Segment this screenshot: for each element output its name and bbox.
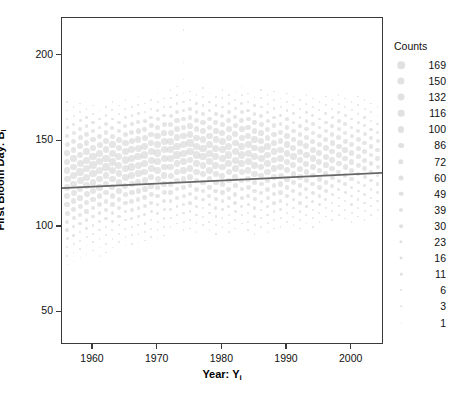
y-tick-label: 200 [13, 48, 53, 60]
legend-swatch-circle [398, 94, 405, 101]
chart-figure: 50100150200 19601970198019902000 First B… [0, 0, 458, 396]
legend-item: 60 [392, 170, 454, 186]
legend-swatch-box [392, 170, 410, 186]
legend-item: 30 [392, 218, 454, 234]
legend-swatch-box [392, 250, 410, 266]
legend-label: 39 [412, 202, 446, 218]
legend-item: 23 [392, 234, 454, 250]
legend-label: 150 [412, 73, 446, 89]
y-tick-label: 100 [13, 219, 53, 231]
legend-swatch-circle [400, 289, 402, 291]
legend-swatch-box [392, 218, 410, 234]
axis-subscript: i [239, 373, 241, 382]
x-tick-mark [285, 344, 286, 349]
legend-swatch-circle [399, 192, 404, 197]
legend-swatch-circle [398, 159, 403, 164]
legend-item: 16 [392, 250, 454, 266]
legend-swatch-box [392, 282, 410, 298]
legend-item: 169 [392, 57, 454, 73]
legend-swatch-circle [399, 208, 403, 212]
trend-line-layer [62, 18, 382, 343]
legend-swatch-box [392, 234, 410, 250]
legend-item: 39 [392, 202, 454, 218]
legend-swatch-circle [398, 110, 405, 117]
legend-label: 100 [412, 121, 446, 137]
x-axis-title: Year: Yi [202, 368, 241, 380]
legend-swatch-box [392, 186, 410, 202]
legend-label: 116 [412, 105, 446, 121]
legend-swatch-circle [399, 240, 402, 243]
y-tick-label: 50 [13, 304, 53, 316]
x-tick-mark [156, 344, 157, 349]
y-tick-mark [56, 311, 61, 312]
x-tick-label: 2000 [331, 352, 371, 364]
legend-swatch-circle [399, 175, 404, 180]
legend: Counts 169150132116100867260493930231611… [392, 40, 454, 331]
legend-item: 132 [392, 89, 454, 105]
legend-swatch-circle [397, 61, 405, 69]
y-axis-title: First Bloom Day: Bi [0, 90, 6, 270]
legend-swatch-circle [399, 224, 403, 228]
x-tick-mark [221, 344, 222, 349]
legend-item: 86 [392, 137, 454, 153]
legend-item: 1 [392, 315, 454, 331]
legend-item: 72 [392, 154, 454, 170]
legend-item: 49 [392, 186, 454, 202]
y-tick-label: 150 [13, 133, 53, 145]
legend-item: 100 [392, 121, 454, 137]
legend-label: 3 [412, 298, 446, 314]
legend-swatch-circle [400, 273, 403, 276]
legend-label: 72 [412, 154, 446, 170]
legend-swatch-circle [400, 257, 403, 260]
legend-item: 3 [392, 298, 454, 314]
legend-label: 86 [412, 137, 446, 153]
x-tick-label: 1980 [201, 352, 241, 364]
legend-label: 11 [412, 266, 446, 282]
legend-label: 30 [412, 218, 446, 234]
legend-swatch-box [392, 266, 410, 282]
legend-swatch-box [392, 57, 410, 73]
y-tick-mark [56, 225, 61, 226]
legend-swatch-box [392, 73, 410, 89]
legend-rows: 169150132116100867260493930231611631 [392, 57, 454, 331]
x-tick-mark [350, 344, 351, 349]
legend-item: 11 [392, 266, 454, 282]
legend-swatch-box [392, 89, 410, 105]
legend-swatch-box [392, 298, 410, 314]
x-tick-label: 1990 [266, 352, 306, 364]
legend-label: 23 [412, 234, 446, 250]
legend-item: 6 [392, 282, 454, 298]
legend-label: 16 [412, 250, 446, 266]
legend-label: 1 [412, 315, 446, 331]
legend-swatch-box [392, 202, 410, 218]
legend-label: 169 [412, 57, 446, 73]
x-tick-label: 1970 [137, 352, 177, 364]
plot-area [61, 17, 383, 344]
y-tick-mark [56, 140, 61, 141]
legend-item: 116 [392, 105, 454, 121]
legend-swatch-box [392, 105, 410, 121]
legend-swatch-box [392, 137, 410, 153]
legend-swatch-box [392, 121, 410, 137]
trend-line [62, 173, 382, 188]
x-tick-mark [91, 344, 92, 349]
legend-label: 60 [412, 170, 446, 186]
legend-label: 6 [412, 282, 446, 298]
legend-label: 49 [412, 186, 446, 202]
legend-title: Counts [394, 40, 454, 52]
x-tick-label: 1960 [72, 352, 112, 364]
legend-swatch-circle [398, 126, 404, 132]
legend-label: 132 [412, 89, 446, 105]
axis-subscript: i [0, 129, 8, 131]
legend-item: 150 [392, 73, 454, 89]
legend-swatch-box [392, 315, 410, 331]
legend-swatch-circle [400, 322, 401, 323]
legend-swatch-box [392, 154, 410, 170]
y-tick-mark [56, 54, 61, 55]
legend-swatch-circle [400, 306, 402, 308]
legend-swatch-circle [397, 78, 404, 85]
legend-swatch-circle [398, 143, 404, 149]
